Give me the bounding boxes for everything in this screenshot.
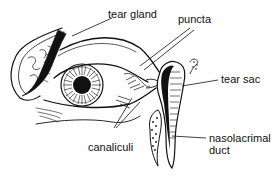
leader-tear-sac — [182, 80, 218, 86]
lacrimal-diagram: tear gland puncta tear sac canaliculi na… — [0, 0, 278, 176]
label-puncta: puncta — [178, 13, 211, 25]
tear-sac-and-duct — [157, 61, 185, 168]
leader-nasolacrimal-duct — [172, 136, 206, 138]
pupil — [73, 76, 91, 94]
label-nasolacrimal-duct: nasolacrimal duct — [209, 132, 271, 156]
label-canaliculi: canaliculi — [88, 141, 133, 153]
label-tear-gland: tear gland — [108, 8, 157, 20]
label-tear-sac: tear sac — [221, 73, 260, 85]
leader-tear-gland — [72, 18, 112, 36]
leader-puncta-upper — [140, 28, 190, 66]
